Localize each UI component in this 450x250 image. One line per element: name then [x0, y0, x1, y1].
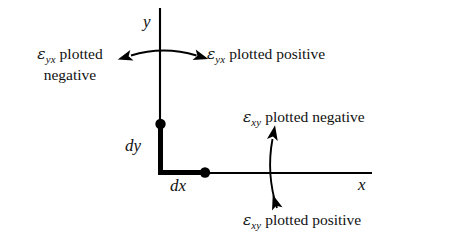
annotation-eps-xy-negative: εxy plotted negative: [243, 108, 365, 129]
y-axis-label: y: [143, 12, 151, 32]
figure-canvas: y x dy dx εyx plotted negative εyx plott…: [0, 0, 450, 250]
epsilon-subscript: xy: [251, 219, 261, 231]
annotation-eps-yx-positive: εyx plotted positive: [207, 45, 325, 66]
dy-label: dy: [125, 136, 141, 156]
annotation-eps-yx-negative-line1: εyx plotted: [14, 45, 126, 66]
diagram-svg: [0, 0, 450, 250]
node-dot-dy-end: [155, 119, 165, 129]
epsilon-subscript: yx: [46, 53, 56, 65]
annotation-text: plotted: [56, 45, 103, 62]
annotation-eps-yx-negative: εyx plotted negative: [14, 45, 126, 84]
x-axis-label: x: [358, 175, 366, 195]
annotation-eps-yx-negative-line2: negative: [14, 66, 126, 84]
epsilon-subscript: xy: [251, 116, 261, 128]
epsilon-subscript: yx: [215, 53, 225, 65]
node-dot-dx-end: [200, 167, 210, 177]
annotation-eps-xy-positive: εxy plotted positive: [243, 211, 361, 232]
annotation-text: plotted negative: [261, 108, 364, 125]
annotation-text: plotted positive: [261, 211, 361, 228]
annotation-text: plotted positive: [225, 45, 325, 62]
epsilon-symbol: ε: [37, 45, 45, 63]
dx-label: dx: [170, 176, 186, 196]
shear-arrow-horizontal: [131, 51, 197, 56]
